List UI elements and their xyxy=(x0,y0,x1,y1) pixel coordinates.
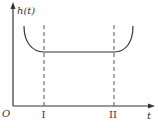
y-axis-label: h(t) xyxy=(17,5,35,16)
x-axis-label: t xyxy=(147,110,152,121)
bathtub-diagram: h(t) O I II t xyxy=(0,0,158,128)
y-axis-arrow-icon xyxy=(11,2,16,9)
hazard-curve xyxy=(24,26,133,52)
x-axis-arrow-icon xyxy=(148,104,155,109)
marker-label-I: I xyxy=(42,109,46,120)
marker-label-II: II xyxy=(109,109,117,120)
origin-label: O xyxy=(2,108,10,119)
